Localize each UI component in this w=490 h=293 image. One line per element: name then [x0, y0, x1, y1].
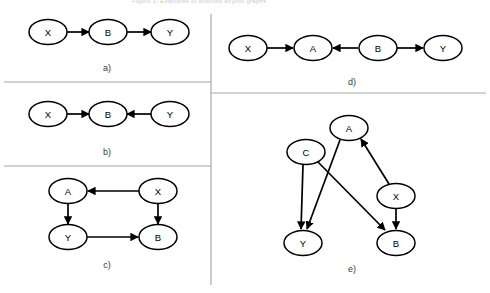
node-a-B: B [89, 20, 127, 45]
node-b-X: X [29, 102, 67, 127]
node-c-A: A [49, 179, 87, 204]
node-e-B: B [377, 231, 415, 256]
node-a-X: X [29, 20, 67, 45]
node-label-c-A: A [65, 186, 72, 197]
node-c-B: B [139, 225, 177, 250]
node-c-X: X [139, 179, 177, 204]
edge-e-C-to-Y [301, 165, 303, 229]
node-e-X: X [377, 184, 415, 209]
panel-caption-c: c) [103, 260, 111, 270]
node-label-a-B: B [105, 27, 111, 38]
node-label-b-Y: Y [167, 109, 174, 120]
edge-e-X-to-A [361, 139, 389, 184]
node-b-Y: Y [151, 102, 189, 127]
node-label-e-X: X [393, 191, 400, 202]
graph-nodes: XBYXBYAXYBXABYACXYB [29, 20, 462, 256]
node-label-e-A: A [346, 123, 353, 134]
node-e-A: A [330, 116, 368, 141]
node-c-Y: Y [49, 225, 87, 250]
node-label-b-X: X [45, 109, 52, 120]
node-label-d-A: A [310, 43, 317, 54]
node-label-c-X: X [155, 186, 162, 197]
panel-caption-a: a) [103, 63, 111, 73]
node-label-a-Y: Y [167, 27, 174, 38]
node-a-Y: Y [151, 20, 189, 45]
node-label-e-C: C [303, 147, 310, 158]
node-label-e-Y: Y [300, 238, 307, 249]
node-label-c-Y: Y [65, 232, 72, 243]
node-label-a-X: X [45, 27, 52, 38]
panel-caption-b: b) [103, 147, 111, 157]
dag-figure: Figure 1: Examples of directed acyclic g… [0, 0, 490, 293]
node-label-d-Y: Y [440, 43, 447, 54]
figure-canvas: XBYXBYAXYBXABYACXYB a)b)c)d)e) [0, 0, 490, 293]
node-d-Y: Y [424, 36, 462, 61]
panel-caption-d: d) [348, 77, 356, 87]
node-e-C: C [287, 140, 325, 165]
node-e-Y: Y [284, 231, 322, 256]
node-b-B: B [89, 102, 127, 127]
node-label-b-B: B [105, 109, 111, 120]
node-d-A: A [294, 36, 332, 61]
node-d-X: X [229, 36, 267, 61]
graph-edges [66, 32, 423, 237]
panel-caption-e: e) [348, 264, 356, 274]
node-label-d-X: X [245, 43, 252, 54]
node-label-d-B: B [375, 43, 381, 54]
node-d-B: B [359, 36, 397, 61]
node-label-c-B: B [155, 232, 161, 243]
edge-e-C-to-B [318, 162, 385, 230]
cut-off-header-text: Figure 1: Examples of directed acyclic g… [132, 0, 267, 4]
node-label-e-B: B [393, 238, 399, 249]
